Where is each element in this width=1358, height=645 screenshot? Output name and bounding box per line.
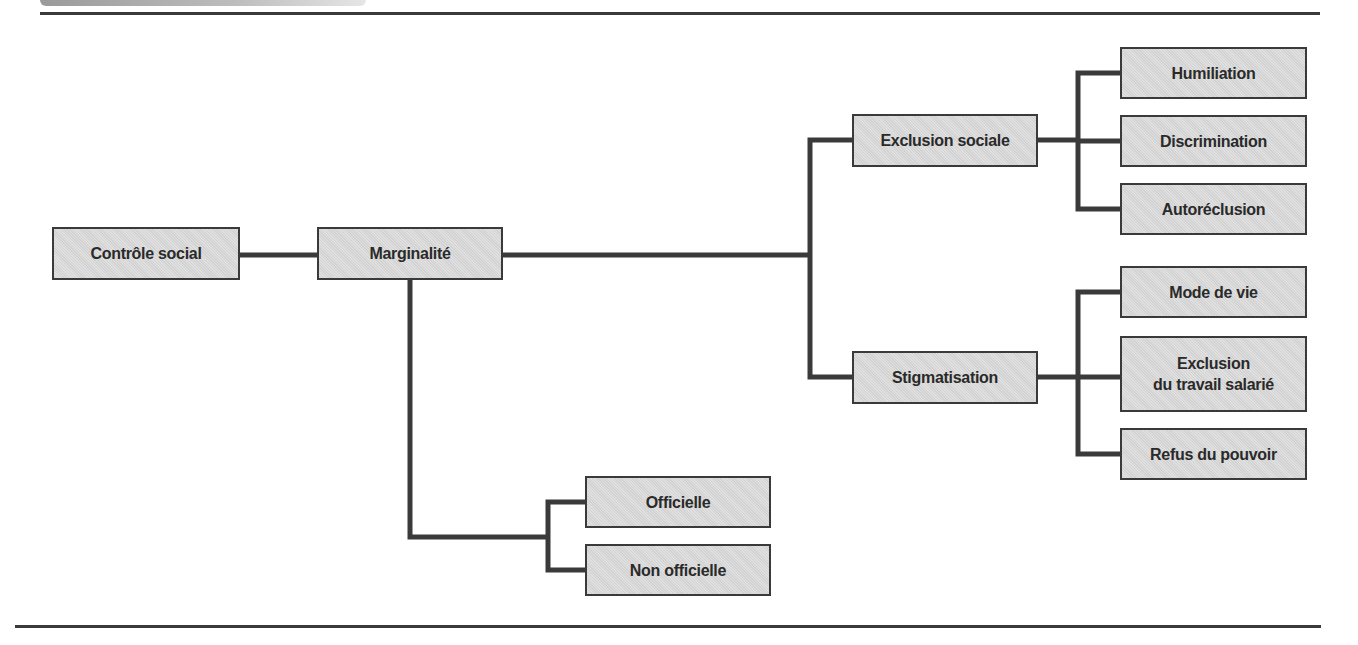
- node-label: Mode de vie: [1169, 282, 1257, 303]
- node-label: Stigmatisation: [892, 367, 998, 388]
- node-non-officielle: Non officielle: [585, 544, 771, 596]
- node-autoreclusion: Autoréclusion: [1120, 183, 1307, 235]
- connector-stigmatisation-children: [1078, 292, 1120, 454]
- node-stigmatisation: Stigmatisation: [852, 351, 1038, 404]
- connector-exclusion-children: [1078, 73, 1120, 209]
- node-label: Autoréclusion: [1162, 199, 1266, 220]
- node-label: Marginalité: [369, 243, 450, 264]
- node-marginalite: Marginalité: [317, 227, 503, 280]
- node-label: Non officielle: [630, 560, 726, 581]
- node-label: Contrôle social: [90, 243, 201, 264]
- node-label-line1: Exclusion: [1177, 353, 1250, 374]
- node-controle-social: Contrôle social: [52, 227, 240, 280]
- node-discrimination: Discrimination: [1120, 115, 1307, 167]
- node-exclusion-travail-salarie: Exclusion du travail salarié: [1120, 336, 1307, 412]
- node-label: Discrimination: [1160, 131, 1267, 152]
- node-mode-de-vie: Mode de vie: [1120, 266, 1307, 318]
- node-label: Officielle: [646, 492, 711, 513]
- connector-officielle-children: [548, 502, 585, 570]
- node-exclusion-sociale: Exclusion sociale: [852, 114, 1038, 167]
- bottom-rule: [15, 625, 1321, 628]
- node-label: Refus du pouvoir: [1150, 444, 1277, 465]
- node-label: Exclusion sociale: [880, 130, 1009, 151]
- connector-trunk-exclusion-stigmatisation: [810, 140, 852, 377]
- node-officielle: Officielle: [585, 476, 771, 528]
- node-refus-du-pouvoir: Refus du pouvoir: [1120, 428, 1307, 480]
- node-label: Humiliation: [1172, 63, 1256, 84]
- connector-marginalite-down: [410, 280, 548, 537]
- node-label-line2: du travail salarié: [1153, 374, 1274, 395]
- node-humiliation: Humiliation: [1120, 47, 1307, 99]
